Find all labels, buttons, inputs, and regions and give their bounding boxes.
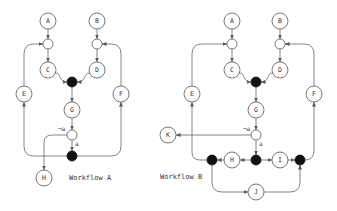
task-node-c[interactable]: C [40, 62, 56, 78]
task-node-d[interactable]: D [272, 62, 288, 78]
xor-gateway[interactable] [67, 130, 77, 140]
svg-text:F: F [312, 90, 316, 98]
svg-text:A: A [46, 17, 50, 25]
svg-text:I: I [278, 156, 282, 164]
svg-text:B: B [95, 17, 99, 25]
workflow-diagrams: ¬a a A B C D E F G H Workflow A [0, 0, 337, 211]
workflow-b: ¬a a A B C D E F G K H I J Workflow B [160, 13, 322, 200]
task-node-f[interactable]: F [113, 86, 129, 102]
svg-text:A: A [230, 17, 234, 25]
svg-text:H: H [230, 156, 234, 164]
svg-text:C: C [230, 66, 234, 74]
task-node-h[interactable]: H [36, 170, 52, 186]
task-node-i[interactable]: I [272, 152, 288, 168]
xor-gateway[interactable] [92, 39, 102, 49]
task-node-e[interactable]: E [16, 86, 32, 102]
task-node-f[interactable]: F [306, 86, 322, 102]
svg-text:C: C [46, 66, 50, 74]
task-node-g[interactable]: G [248, 102, 264, 118]
and-gateway[interactable] [207, 155, 217, 165]
task-node-a[interactable]: A [40, 13, 56, 29]
svg-text:E: E [190, 90, 194, 98]
task-node-b[interactable]: B [89, 13, 105, 29]
svg-text:J: J [254, 188, 258, 196]
svg-text:D: D [95, 66, 99, 74]
svg-text:G: G [254, 106, 258, 114]
svg-text:G: G [70, 106, 74, 114]
task-node-c[interactable]: C [224, 62, 240, 78]
and-gateway[interactable] [251, 77, 261, 87]
svg-text:E: E [22, 90, 26, 98]
and-gateway[interactable] [67, 77, 77, 87]
task-node-g[interactable]: G [64, 102, 80, 118]
edge-label-a: a [75, 140, 79, 147]
workflow-a: ¬a a A B C D E F G H Workflow A [16, 13, 129, 186]
workflow-b-title: Workflow B [160, 173, 202, 181]
task-node-k[interactable]: K [160, 127, 176, 143]
xor-gateway[interactable] [251, 130, 261, 140]
task-node-h[interactable]: H [224, 152, 240, 168]
task-node-j[interactable]: J [248, 184, 264, 200]
xor-gateway[interactable] [43, 39, 53, 49]
task-node-a[interactable]: A [224, 13, 240, 29]
and-gateway[interactable] [295, 155, 305, 165]
task-node-e[interactable]: E [184, 86, 200, 102]
workflow-a-title: Workflow A [69, 174, 112, 182]
svg-text:K: K [166, 131, 170, 139]
xor-gateway[interactable] [227, 39, 237, 49]
edge-label-not-a: ¬a [243, 125, 251, 132]
svg-text:F: F [119, 90, 123, 98]
workflow-a-edges [24, 29, 121, 170]
task-node-d[interactable]: D [89, 62, 105, 78]
xor-gateway[interactable] [275, 39, 285, 49]
task-node-b[interactable]: B [272, 13, 288, 29]
edge-label-a: a [259, 140, 263, 147]
and-gateway[interactable] [251, 155, 261, 165]
and-gateway[interactable] [67, 151, 77, 161]
workflow-b-edges [176, 29, 314, 192]
svg-text:D: D [278, 66, 282, 74]
svg-text:H: H [42, 174, 46, 182]
edge-label-not-a: ¬a [58, 125, 66, 132]
svg-text:B: B [278, 17, 282, 25]
